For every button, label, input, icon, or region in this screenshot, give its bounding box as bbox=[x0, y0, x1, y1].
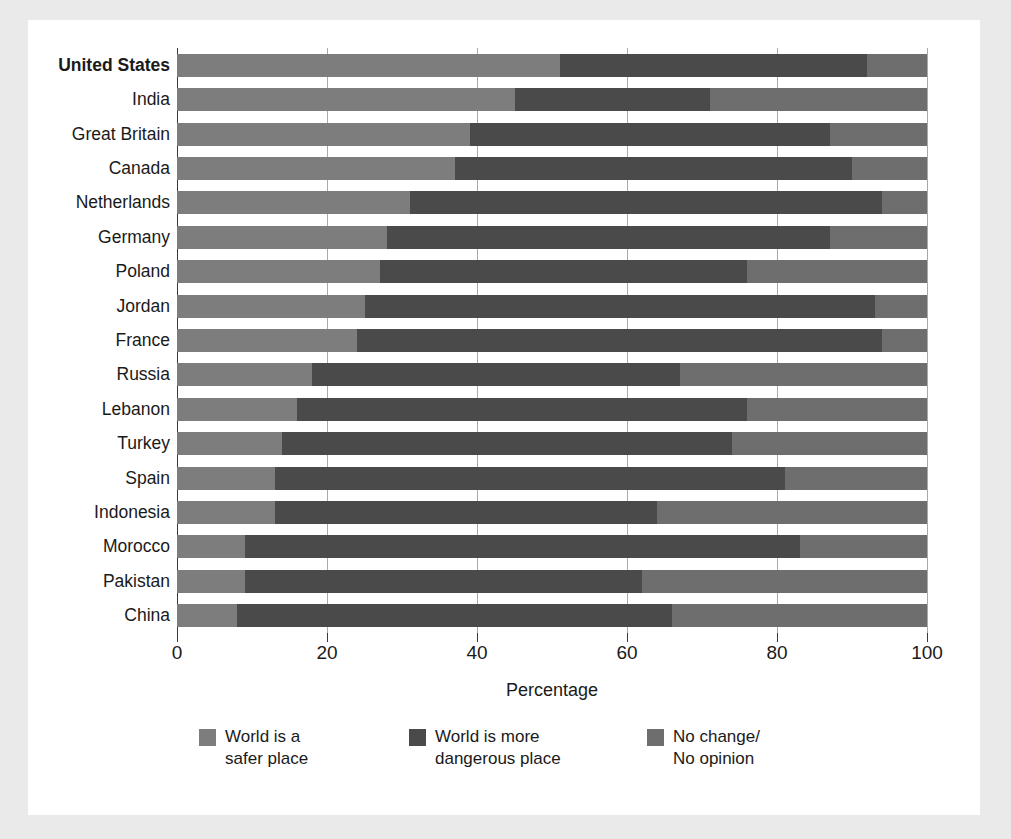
category-label-poland: Poland bbox=[116, 260, 171, 283]
legend-label-nochange: No change/ No opinion bbox=[673, 726, 760, 770]
chart-legend: World is a safer place World is more dan… bbox=[177, 726, 937, 796]
bar-row bbox=[177, 54, 927, 77]
bar-segment-dangerous bbox=[275, 467, 785, 490]
bar-segment-dangerous bbox=[455, 157, 853, 180]
bar-segment-nochange bbox=[800, 535, 928, 558]
x-tick-label-40: 40 bbox=[466, 642, 487, 664]
x-tick-60 bbox=[627, 633, 628, 642]
legend-label-dangerous-line2: dangerous place bbox=[435, 749, 561, 768]
x-tick-label-60: 60 bbox=[616, 642, 637, 664]
legend-label-safer-line1: World is a bbox=[225, 727, 300, 746]
legend-label-nochange-line1: No change/ bbox=[673, 727, 760, 746]
bar-segment-safer bbox=[177, 363, 312, 386]
bar-segment-dangerous bbox=[410, 191, 883, 214]
bar-segment-safer bbox=[177, 54, 560, 77]
legend-label-dangerous-line1: World is more bbox=[435, 727, 540, 746]
chart-panel: United StatesIndiaGreat BritainCanadaNet… bbox=[28, 20, 980, 815]
category-label-germany: Germany bbox=[98, 226, 170, 249]
category-label-great-britain: Great Britain bbox=[72, 123, 170, 146]
bar-segment-nochange bbox=[875, 295, 928, 318]
legend-item-nochange: No change/ No opinion bbox=[647, 726, 760, 770]
bar-row bbox=[177, 535, 927, 558]
bar-row bbox=[177, 467, 927, 490]
plot-area: 020406080100 bbox=[177, 48, 927, 633]
bar-segment-safer bbox=[177, 604, 237, 627]
x-tick-80 bbox=[777, 633, 778, 642]
bar-segment-dangerous bbox=[515, 88, 710, 111]
bar-row bbox=[177, 260, 927, 283]
bar-segment-dangerous bbox=[560, 54, 868, 77]
bar-segment-safer bbox=[177, 191, 410, 214]
bar-segment-nochange bbox=[867, 54, 927, 77]
category-label-china: China bbox=[124, 604, 170, 627]
category-label-turkey: Turkey bbox=[117, 432, 170, 455]
x-tick-label-20: 20 bbox=[316, 642, 337, 664]
category-label-pakistan: Pakistan bbox=[103, 570, 170, 593]
category-label-india: India bbox=[132, 88, 170, 111]
x-axis-title: Percentage bbox=[177, 680, 927, 701]
category-label-lebanon: Lebanon bbox=[102, 398, 170, 421]
bar-row bbox=[177, 501, 927, 524]
x-tick-100 bbox=[927, 633, 928, 642]
page-root: United StatesIndiaGreat BritainCanadaNet… bbox=[0, 0, 1011, 839]
bar-row bbox=[177, 329, 927, 352]
bar-segment-nochange bbox=[657, 501, 927, 524]
bar-segment-safer bbox=[177, 226, 387, 249]
bar-segment-nochange bbox=[747, 260, 927, 283]
bar-row bbox=[177, 123, 927, 146]
bar-segment-safer bbox=[177, 398, 297, 421]
bar-segment-dangerous bbox=[357, 329, 882, 352]
legend-item-dangerous: World is more dangerous place bbox=[409, 726, 561, 770]
bar-segment-nochange bbox=[830, 123, 928, 146]
bar-segment-safer bbox=[177, 501, 275, 524]
bar-row bbox=[177, 398, 927, 421]
category-label-jordan: Jordan bbox=[116, 295, 170, 318]
bar-segment-safer bbox=[177, 157, 455, 180]
bar-segment-dangerous bbox=[380, 260, 748, 283]
bar-segment-safer bbox=[177, 123, 470, 146]
category-label-netherlands: Netherlands bbox=[76, 191, 170, 214]
bar-segment-nochange bbox=[710, 88, 928, 111]
bar-row bbox=[177, 570, 927, 593]
bar-row bbox=[177, 604, 927, 627]
bar-segment-safer bbox=[177, 570, 245, 593]
bar-segment-safer bbox=[177, 88, 515, 111]
bar-row bbox=[177, 157, 927, 180]
category-label-morocco: Morocco bbox=[103, 535, 170, 558]
bar-segment-dangerous bbox=[282, 432, 732, 455]
bar-segment-dangerous bbox=[365, 295, 875, 318]
bar-segment-dangerous bbox=[297, 398, 747, 421]
x-tick-40 bbox=[477, 633, 478, 642]
bar-row bbox=[177, 226, 927, 249]
bar-row bbox=[177, 191, 927, 214]
bar-segment-nochange bbox=[672, 604, 927, 627]
legend-swatch-nochange-icon bbox=[647, 729, 664, 746]
x-tick-0 bbox=[177, 633, 178, 642]
x-tick-label-0: 0 bbox=[172, 642, 183, 664]
bar-segment-nochange bbox=[882, 329, 927, 352]
legend-item-safer: World is a safer place bbox=[199, 726, 308, 770]
legend-swatch-dangerous-icon bbox=[409, 729, 426, 746]
legend-swatch-safer-icon bbox=[199, 729, 216, 746]
bar-segment-nochange bbox=[732, 432, 927, 455]
stacked-bar-chart: United StatesIndiaGreat BritainCanadaNet… bbox=[28, 20, 980, 815]
bar-row bbox=[177, 432, 927, 455]
bar-segment-safer bbox=[177, 535, 245, 558]
category-label-united-states: United States bbox=[58, 54, 170, 77]
bar-row bbox=[177, 295, 927, 318]
bar-segment-nochange bbox=[642, 570, 927, 593]
category-labels: United StatesIndiaGreat BritainCanadaNet… bbox=[28, 48, 170, 633]
bar-segment-dangerous bbox=[275, 501, 658, 524]
bar-segment-safer bbox=[177, 329, 357, 352]
category-label-france: France bbox=[116, 329, 170, 352]
bar-segment-safer bbox=[177, 467, 275, 490]
bar-segment-dangerous bbox=[312, 363, 680, 386]
bar-segment-safer bbox=[177, 295, 365, 318]
x-tick-label-80: 80 bbox=[766, 642, 787, 664]
category-label-russia: Russia bbox=[117, 363, 171, 386]
bar-segment-dangerous bbox=[237, 604, 672, 627]
gridline-100 bbox=[927, 48, 928, 633]
bar-segment-dangerous bbox=[387, 226, 830, 249]
legend-label-safer-line2: safer place bbox=[225, 749, 308, 768]
category-label-spain: Spain bbox=[125, 467, 170, 490]
